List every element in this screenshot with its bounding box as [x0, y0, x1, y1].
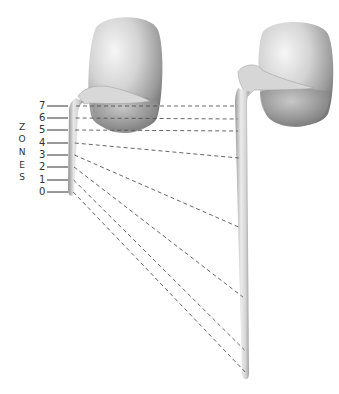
zones-diagram: Z O N E S 7 6 5 4 3 2 1 0 [0, 0, 339, 394]
right-tube [235, 88, 250, 379]
zone-connectors [47, 106, 245, 372]
zones-letter: O [17, 134, 27, 144]
zone-label-6: 6 [39, 113, 45, 123]
zone-connector-2 [74, 167, 243, 297]
diagram-canvas [0, 0, 339, 394]
zone-connector-0 [73, 192, 245, 372]
zone-connector-3 [74, 155, 240, 228]
zone-label-5: 5 [39, 125, 45, 135]
zone-connector-5 [75, 130, 238, 131]
zone-label-4: 4 [39, 138, 45, 148]
zone-label-3: 3 [39, 150, 45, 160]
zone-label-7: 7 [39, 101, 45, 111]
left-tube [68, 98, 84, 196]
right-organ [235, 22, 333, 379]
zones-letter: S [17, 172, 27, 182]
zones-letter: E [17, 160, 27, 170]
zones-letter: Z [17, 122, 27, 132]
zones-letter: N [17, 147, 27, 157]
zone-label-1: 1 [39, 175, 45, 185]
zone-connector-1 [74, 180, 245, 350]
left-organ [68, 17, 162, 196]
zone-label-0: 0 [39, 187, 45, 197]
zone-connector-4 [75, 143, 239, 158]
zone-label-2: 2 [39, 162, 45, 172]
